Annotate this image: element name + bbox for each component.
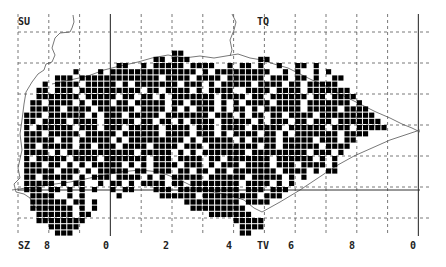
tetrad-record: [295, 156, 300, 161]
tetrad-record: [184, 187, 189, 192]
tetrad-record: [252, 168, 257, 173]
tetrad-record: [209, 125, 214, 130]
tetrad-record: [92, 156, 97, 161]
tetrad-record: [123, 156, 128, 161]
tetrad-record: [221, 125, 226, 130]
tetrad-record: [141, 82, 146, 87]
tetrad-record: [55, 156, 60, 161]
tetrad-record: [221, 94, 226, 99]
tetrad-record: [30, 131, 35, 136]
tetrad-record: [283, 137, 288, 142]
tetrad-record: [264, 193, 269, 198]
tetrad-record: [154, 75, 159, 80]
tetrad-record: [166, 82, 171, 87]
tetrad-record: [234, 144, 239, 149]
tetrad-record: [98, 131, 103, 136]
tetrad-record: [203, 75, 208, 80]
tetrad-record: [314, 75, 319, 80]
tetrad-record: [43, 175, 48, 180]
tetrad-record: [320, 82, 325, 87]
tetrad-record: [110, 94, 115, 99]
tetrad-record: [190, 94, 195, 99]
tetrad-record: [252, 144, 257, 149]
tetrad-record: [264, 88, 269, 93]
tetrad-record: [55, 199, 60, 204]
tetrad-record: [166, 69, 171, 74]
tetrad-record: [43, 150, 48, 155]
tetrad-record: [227, 82, 232, 87]
tetrad-record: [209, 162, 214, 167]
tetrad-record: [344, 113, 349, 118]
tetrad-record: [326, 82, 331, 87]
tetrad-record: [258, 75, 263, 80]
tetrad-record: [283, 100, 288, 105]
tetrad-record: [197, 119, 202, 124]
tetrad-record: [129, 106, 134, 111]
tetrad-record: [160, 168, 165, 173]
tetrad-record: [246, 230, 251, 235]
tetrad-record: [338, 119, 343, 124]
tetrad-record: [301, 150, 306, 155]
tetrad-record: [215, 193, 220, 198]
tetrad-record: [178, 137, 183, 142]
tetrad-record: [301, 113, 306, 118]
tetrad-record: [36, 137, 41, 142]
tetrad-record: [332, 168, 337, 173]
tetrad-record: [36, 218, 41, 223]
tetrad-record: [258, 150, 263, 155]
tetrad-record: [30, 144, 35, 149]
tetrad-record: [92, 199, 97, 204]
tetrad-record: [92, 131, 97, 136]
tetrad-record: [314, 63, 319, 68]
tetrad-record: [338, 144, 343, 149]
tetrad-record: [61, 144, 66, 149]
tetrad-record: [92, 75, 97, 80]
tetrad-record: [203, 106, 208, 111]
tetrad-record: [49, 181, 54, 186]
tetrad-record: [215, 206, 220, 211]
tetrad-record: [246, 162, 251, 167]
tetrad-record: [184, 82, 189, 87]
tetrad-record: [184, 57, 189, 62]
tetrad-record: [117, 193, 122, 198]
tetrad-record: [80, 100, 85, 105]
tetrad-record: [86, 168, 91, 173]
tetrad-record: [24, 131, 29, 136]
tetrad-record: [252, 75, 257, 80]
tetrad-record: [240, 69, 245, 74]
tetrad-record: [209, 175, 214, 180]
tetrad-record: [129, 119, 134, 124]
tetrad-record: [141, 113, 146, 118]
tetrad-record: [338, 150, 343, 155]
tetrad-record: [43, 199, 48, 204]
tetrad-record: [209, 206, 214, 211]
tetrad-record: [80, 125, 85, 130]
tetrad-record: [264, 82, 269, 87]
tetrad-record: [197, 131, 202, 136]
tetrad-record: [110, 187, 115, 192]
tetrad-record: [117, 75, 122, 80]
tetrad-record: [246, 187, 251, 192]
tetrad-record: [123, 63, 128, 68]
tetrad-record: [234, 119, 239, 124]
tetrad-record: [36, 131, 41, 136]
tetrad-record: [61, 206, 66, 211]
tetrad-record: [141, 125, 146, 130]
tetrad-record: [264, 131, 269, 136]
tetrad-record: [277, 125, 282, 130]
tetrad-record: [67, 168, 72, 173]
tetrad-record: [80, 144, 85, 149]
tetrad-record: [61, 156, 66, 161]
tetrad-record: [30, 199, 35, 204]
tetrad-record: [240, 63, 245, 68]
tetrad-record: [357, 100, 362, 105]
tetrad-record: [184, 113, 189, 118]
tetrad-record: [252, 175, 257, 180]
tetrad-record: [80, 150, 85, 155]
tetrad-record: [203, 125, 208, 130]
tetrad-record: [86, 88, 91, 93]
tetrad-record: [271, 75, 276, 80]
tetrad-record: [36, 100, 41, 105]
tetrad-record: [277, 88, 282, 93]
tetrad-record: [240, 106, 245, 111]
